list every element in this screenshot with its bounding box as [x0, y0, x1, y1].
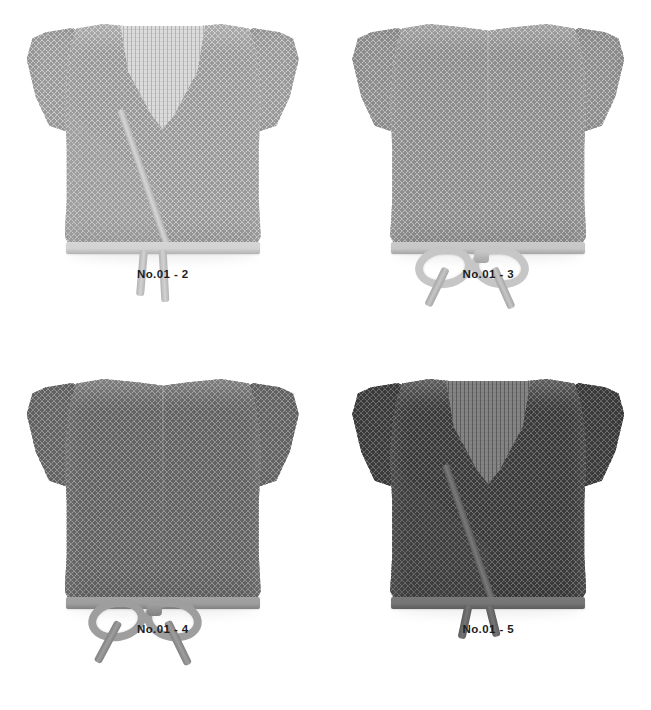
- centre-back-crease: [162, 387, 164, 577]
- garment-cell-1: No.01 - 2: [0, 0, 326, 355]
- garment-caption-3: No.01 - 4: [18, 623, 308, 635]
- centre-back-crease: [487, 32, 489, 222]
- garment-photo-2: No.01 - 3: [343, 14, 633, 306]
- garment-cell-4: No.01 - 5: [326, 355, 651, 710]
- crochet-wrap-top-front: [343, 369, 633, 661]
- crochet-wrap-top-back: [343, 14, 633, 306]
- crochet-wrap-top-front: [18, 14, 308, 306]
- garment-caption-2: No.01 - 3: [343, 268, 633, 280]
- garment-caption-1: No.01 - 2: [18, 268, 308, 280]
- garment-photo-3: No.01 - 4: [18, 369, 308, 661]
- garment-cell-2: No.01 - 3: [326, 0, 651, 355]
- garment-photo-1: No.01 - 2: [18, 14, 308, 306]
- garment-photo-4: No.01 - 5: [343, 369, 633, 661]
- colorway-plate: No.01 - 2 No.01 - 3: [0, 0, 651, 710]
- crochet-wrap-top-back: [18, 369, 308, 661]
- bow-knot: [474, 250, 489, 263]
- garment-cell-3: No.01 - 4: [0, 355, 326, 710]
- bow-knot: [147, 603, 162, 616]
- garment-caption-4: No.01 - 5: [343, 623, 633, 635]
